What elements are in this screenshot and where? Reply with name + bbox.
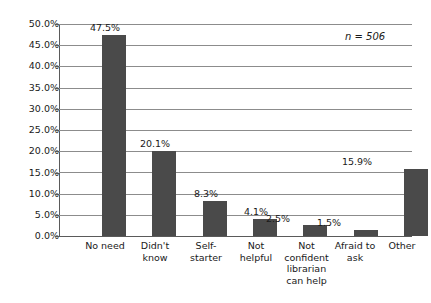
bar-didnt-know <box>152 151 176 236</box>
y-axis-tick-label: 30.0% <box>4 104 59 114</box>
x-axis-label-no-need: No need <box>76 240 134 252</box>
bar-afraid-to-ask <box>354 230 378 236</box>
plot-area <box>59 24 412 236</box>
sample-size-annotation: n = 506 <box>345 31 385 42</box>
bar-value-label-afraid-to-ask: 1.5% <box>284 217 374 228</box>
bar-chart: 50.0% 45.0% 40.0% 35.0% 30.0% 25.0% 20.0… <box>0 0 431 303</box>
x-axis-label-self-starter: Self-starter <box>181 240 231 263</box>
bar-no-need <box>102 35 126 236</box>
y-axis-tick-label: 40.0% <box>4 61 59 71</box>
y-axis-tick-label: 10.0% <box>4 189 59 199</box>
x-axis-label-didnt-know: Didn't know <box>131 240 179 263</box>
y-axis-tick-label: 25.0% <box>4 125 59 135</box>
y-axis-tick-label: 45.0% <box>4 40 59 50</box>
x-axis-label-not-helpful: Not helpful <box>231 240 281 263</box>
x-axis-label-not-confident: Not confident librarian can help <box>280 240 333 286</box>
y-axis-tick-label: 5.0% <box>4 210 59 220</box>
y-axis-tick-label: 20.0% <box>4 146 59 156</box>
bar-value-label-other: 15.9% <box>334 156 380 167</box>
y-axis-tick-label: 15.0% <box>4 168 59 178</box>
x-axis-line <box>59 236 412 237</box>
y-axis: 50.0% 45.0% 40.0% 35.0% 30.0% 25.0% 20.0… <box>0 0 59 303</box>
bar-self-starter <box>203 201 227 236</box>
bar-value-label-no-need: 47.5% <box>82 22 128 33</box>
x-axis-label-afraid-to-ask: Afraid to ask <box>334 240 376 263</box>
bar-value-label-self-starter: 8.3% <box>183 188 229 199</box>
bar-value-label-didnt-know: 20.1% <box>132 138 178 149</box>
y-axis-tick-label: 50.0% <box>4 19 59 29</box>
x-axis-label-other: Other <box>378 240 426 252</box>
bar-other <box>404 169 428 236</box>
y-axis-tick-label: 35.0% <box>4 83 59 93</box>
y-axis-tick-label: 0.0% <box>4 231 59 241</box>
